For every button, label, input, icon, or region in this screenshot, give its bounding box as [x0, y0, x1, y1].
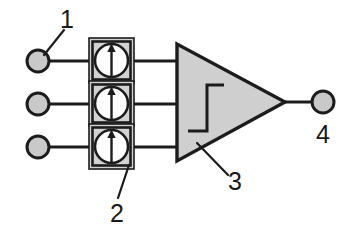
leader-line-3: [197, 143, 228, 175]
reference-numeral-3: 3: [228, 167, 242, 195]
figure-canvas: 1 2 3 4: [0, 0, 355, 233]
reference-numeral-2: 2: [110, 199, 124, 227]
sensor-symbol-bottom: [95, 130, 128, 164]
reference-numeral-1: 1: [60, 5, 74, 33]
amplifier-triangle: [177, 44, 285, 161]
output-terminal[interactable]: [312, 91, 334, 113]
reference-numeral-4: 4: [316, 120, 330, 148]
patent-figure: 1 2 3 4: [0, 0, 355, 233]
leader-line-1: [44, 30, 64, 55]
input-terminal-middle[interactable]: [27, 93, 49, 115]
amplifier-body: [177, 44, 285, 161]
sensor-box-middle[interactable]: [89, 81, 134, 126]
leader-line-2: [118, 165, 129, 198]
input-terminals-group: [27, 50, 49, 158]
sensor-box-bottom[interactable]: [89, 124, 134, 169]
sensor-symbol-middle: [95, 87, 128, 121]
sensor-box-top[interactable]: [89, 38, 134, 83]
sensor-symbol-top: [95, 44, 128, 78]
input-terminal-bottom[interactable]: [27, 136, 49, 158]
